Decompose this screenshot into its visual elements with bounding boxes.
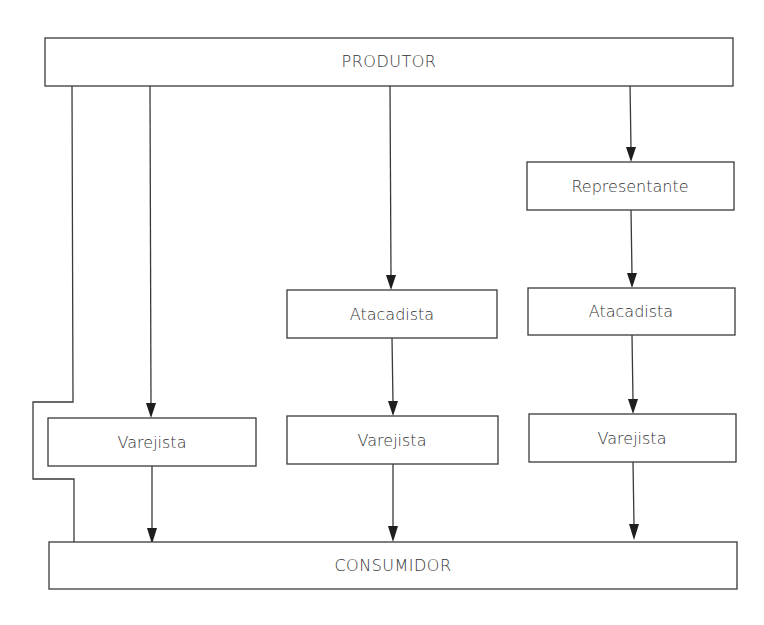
arrowhead-icon (386, 275, 396, 290)
node-label: Varejista (118, 433, 187, 452)
node-label: CONSUMIDOR (334, 556, 451, 575)
edge-atacadista-varejista-right (632, 335, 633, 401)
node-label: Atacadista (589, 302, 673, 321)
node-consumidor: CONSUMIDOR (49, 542, 737, 589)
edge-produtor-atacadista-mid (390, 84, 391, 277)
node-atacadista-right: Atacadista (528, 288, 735, 335)
node-varejista-left: Varejista (48, 418, 256, 466)
edge-representante-atacadista-right (631, 210, 632, 275)
arrowhead-icon (626, 147, 636, 162)
node-label: PRODUTOR (342, 52, 437, 71)
node-varejista-right: Varejista (529, 414, 736, 462)
arrowhead-icon (146, 403, 156, 418)
distribution-channels-diagram: PRODUTOR Representante Atacadista Atacad… (0, 0, 764, 625)
edge-direct-channel (33, 86, 74, 542)
edge-atacadista-varejista-mid (392, 338, 393, 403)
node-produtor: PRODUTOR (45, 38, 733, 86)
node-varejista-mid: Varejista (287, 416, 498, 464)
node-representante: Representante (527, 162, 734, 210)
node-label: Varejista (598, 429, 667, 448)
node-atacadista-mid: Atacadista (287, 290, 497, 338)
edge-varejista-right-consumidor (633, 462, 634, 526)
node-label: Varejista (358, 431, 427, 450)
arrowhead-icon (388, 401, 398, 416)
node-label: Representante (571, 177, 688, 196)
node-label: Atacadista (350, 305, 434, 324)
arrowhead-icon (627, 273, 637, 288)
edge-produtor-representante (630, 82, 631, 149)
edge-produtor-varejista-left (150, 86, 151, 405)
arrowhead-icon (629, 524, 639, 540)
arrowhead-icon (388, 526, 398, 542)
arrowhead-icon (628, 399, 638, 414)
